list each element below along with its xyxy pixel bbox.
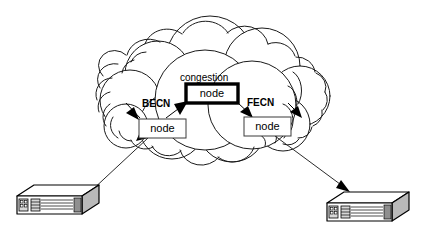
diagram-canvas: node congestion node BECN node FECN — [0, 0, 426, 232]
left-node-label: node — [150, 122, 174, 134]
congestion-caption: congestion — [180, 72, 228, 83]
right-node-label: node — [255, 120, 279, 132]
arrowhead-to-right-device — [336, 180, 350, 192]
right-router-led-4 — [335, 212, 338, 215]
network-congestion-diagram: node congestion node BECN node FECN — [0, 0, 426, 232]
right-router-led-3 — [331, 212, 334, 215]
right-router-led-2 — [335, 208, 338, 211]
left-router-led-1 — [21, 201, 24, 204]
becn-label: BECN — [142, 98, 170, 109]
right-router-led-1 — [331, 208, 334, 211]
left-node[interactable]: node — [139, 119, 186, 138]
congestion-node-label: node — [200, 87, 224, 99]
left-router-led-2 — [25, 201, 28, 204]
right-device-link — [275, 136, 348, 190]
left-router-led-3 — [21, 205, 24, 208]
right-node[interactable]: node — [244, 117, 291, 136]
right-router[interactable] — [327, 192, 409, 221]
left-router[interactable] — [17, 185, 99, 214]
congestion-node[interactable]: node — [186, 84, 238, 103]
left-router-led-4 — [25, 205, 28, 208]
left-router-port — [74, 198, 81, 212]
fecn-label: FECN — [247, 97, 274, 108]
right-router-port — [384, 205, 391, 219]
